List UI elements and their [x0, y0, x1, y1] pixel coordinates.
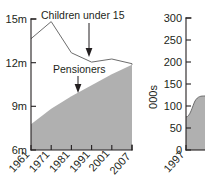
- y-tick-label-12m: 12m: [6, 57, 27, 69]
- figure-container: 15m 12m 9m 6m 1961 1971 1981 1991 2001 2…: [0, 0, 205, 190]
- x-tick-label-2007: 2007: [107, 150, 132, 176]
- population-chart-svg: 15m 12m 9m 6m 1961 1971 1981 1991 2001 2…: [0, 0, 145, 190]
- children-under-15-line: [31, 22, 132, 64]
- annotation-label-pensioners: Pensioners: [53, 63, 106, 75]
- secondary-y-axis-title: 000s: [147, 85, 159, 109]
- secondary-y-tick-label-100: 100: [164, 100, 182, 112]
- y-tick-label-15m: 15m: [6, 13, 27, 25]
- secondary-y-tick-label-200: 200: [164, 56, 182, 68]
- secondary-area: [186, 96, 205, 150]
- x-tick-label-1981: 1981: [47, 148, 72, 174]
- annotation-label-children: Children under 15: [41, 9, 125, 21]
- secondary-y-tick-label-50: 50: [170, 122, 182, 134]
- pensioners-area: [31, 65, 132, 150]
- y-tick-label-9m: 9m: [12, 100, 27, 112]
- annotation-arrow-children-head: [86, 48, 93, 57]
- secondary-x-tick-label-1997: 1997: [161, 148, 186, 174]
- x-tick-label-1971: 1971: [26, 148, 51, 174]
- secondary-y-tick-label-250: 250: [164, 34, 182, 46]
- population-chart: 15m 12m 9m 6m 1961 1971 1981 1991 2001 2…: [0, 0, 145, 190]
- secondary-chart-svg: 300 250 200 150 100 50 0 000s 1997: [145, 0, 205, 190]
- x-tick-label-1961: 1961: [6, 148, 31, 174]
- secondary-y-tick-label-150: 150: [164, 78, 182, 90]
- secondary-chart: 300 250 200 150 100 50 0 000s 1997: [145, 0, 205, 190]
- x-tick-label-1991: 1991: [67, 148, 92, 174]
- secondary-y-tick-label-300: 300: [164, 12, 182, 24]
